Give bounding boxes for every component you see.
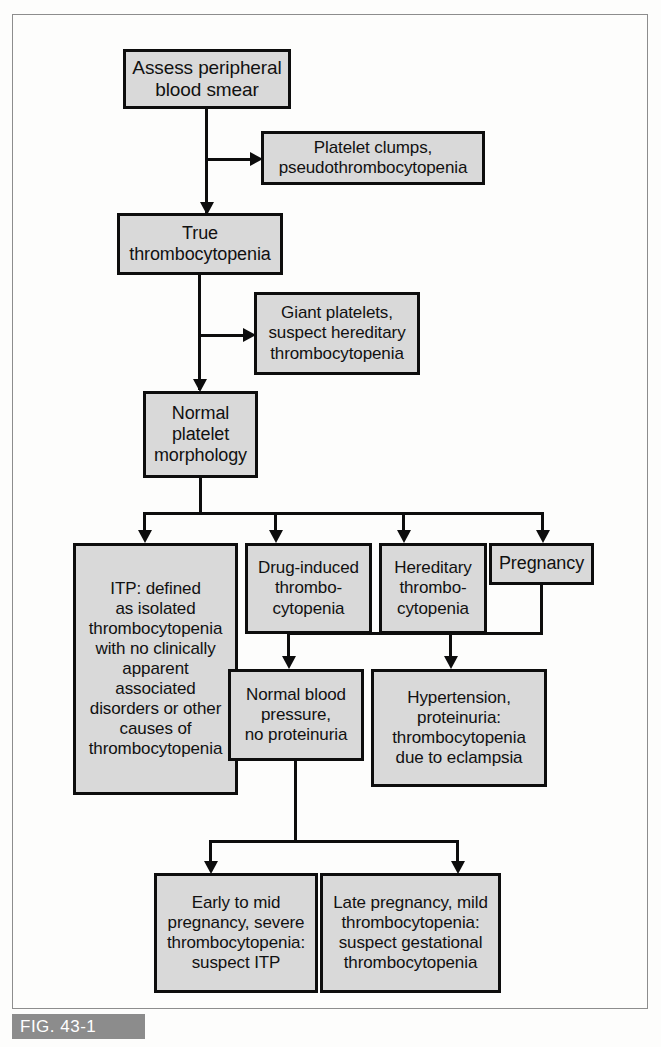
node-hereditary-line-3: cytopenia (386, 599, 480, 619)
node-itp-line-1: ITP: defined (80, 579, 231, 599)
node-hereditary-thrombocytopenia: Hereditary thrombo- cytopenia (379, 543, 487, 634)
node-hereditary-label: Hereditary thrombo- cytopenia (386, 558, 480, 618)
node-itp: ITP: defined as isolated thrombocytopeni… (73, 543, 238, 795)
node-itp-line-4: with no clinically (80, 639, 231, 659)
node-itp-label: ITP: defined as isolated thrombocytopeni… (80, 579, 231, 759)
node-normal-morph-line-1: Normal (150, 403, 251, 424)
arrowhead-drop-normal-bp (282, 656, 296, 669)
node-normal-bp-line-3: no proteinuria (235, 725, 357, 745)
node-giant-platelets: Giant platelets, suspect hereditary thro… (254, 292, 420, 375)
node-itp-line-5: apparent (80, 659, 231, 679)
connector-normal-bp-stem (294, 761, 297, 843)
node-itp-line-7: disorders or other (80, 699, 231, 719)
figure-frame: Assess peripheral blood smear Platelet c… (12, 14, 648, 1009)
connector-pregnancy-stem (540, 585, 543, 635)
node-itp-line-9: thrombocytopenia (80, 739, 231, 759)
arrowhead-drop-itp (138, 530, 152, 543)
node-drug-line-2: thrombo- (252, 578, 365, 598)
connector-four-way-bar (143, 512, 544, 515)
node-hypertension-label: Hypertension, proteinuria: thrombocytope… (378, 688, 540, 768)
node-late-pregnancy-label: Late pregnancy, mild thrombocytopenia: s… (327, 893, 494, 973)
node-itp-line-6: associated (80, 679, 231, 699)
connector-assess-to-true (205, 109, 208, 213)
node-pregnancy: Pregnancy (489, 543, 594, 585)
node-pregnancy-label: Pregnancy (496, 553, 587, 574)
connector-bottom-split-bar (209, 840, 459, 843)
figure-caption-label: FIG. 43-1 (12, 1017, 96, 1037)
figure-page: Assess peripheral blood smear Platelet c… (0, 0, 661, 1047)
node-drug-induced-label: Drug-induced thrombo- cytopenia (252, 558, 365, 618)
node-normal-morph-line-2: platelet (150, 424, 251, 445)
arrowhead-drop-drug-induced (269, 530, 283, 543)
node-early-line-4: suspect ITP (161, 953, 311, 973)
arrowhead-drop-hypertension (444, 656, 458, 669)
node-itp-line-8: causes of (80, 719, 231, 739)
node-drug-line-1: Drug-induced (252, 558, 365, 578)
node-hypertension-line-2: proteinuria: (378, 708, 540, 728)
node-early-line-1: Early to mid (161, 893, 311, 913)
node-platelet-clumps-label: Platelet clumps, pseudothrombocytopenia (268, 138, 478, 178)
arrowhead-drop-hereditary (397, 530, 411, 543)
node-assess-label: Assess peripheral blood smear (130, 57, 284, 102)
connector-drop-normal-bp (287, 632, 290, 659)
node-hypertension-line-3: thrombocytopenia (378, 728, 540, 748)
node-drug-induced-thrombocytopenia: Drug-induced thrombo- cytopenia (245, 543, 372, 634)
node-hypertension-eclampsia: Hypertension, proteinuria: thrombocytope… (371, 669, 547, 787)
node-hypertension-line-4: due to eclampsia (378, 748, 540, 768)
node-true-thrombocytopenia: True thrombocytopenia (117, 213, 283, 275)
node-early-line-3: thrombocytopenia: (161, 933, 311, 953)
node-early-mid-pregnancy: Early to mid pregnancy, severe thrombocy… (154, 873, 318, 993)
node-platelet-clumps: Platelet clumps, pseudothrombocytopenia (261, 131, 485, 185)
connector-drop-hypertension (449, 632, 452, 659)
node-true-thrombocytopenia-label: True thrombocytopenia (124, 223, 276, 265)
node-normal-platelet-morphology: Normal platelet morphology (143, 391, 258, 478)
figure-caption-bar: FIG. 43-1 (12, 1014, 145, 1039)
node-hypertension-line-1: Hypertension, (378, 688, 540, 708)
arrowhead-drop-pregnancy (536, 530, 550, 543)
node-normal-bp-line-1: Normal blood (235, 685, 357, 705)
node-hereditary-line-1: Hereditary (386, 558, 480, 578)
node-late-line-3: suspect gestational (327, 933, 494, 953)
node-late-line-2: thrombocytopenia: (327, 913, 494, 933)
node-late-line-4: thrombocytopenia (327, 953, 494, 973)
connector-true-to-normal (198, 275, 201, 390)
connector-pregnancy-split-bar (287, 632, 543, 635)
node-platelet-clumps-line-2: pseudothrombocytopenia (268, 158, 478, 178)
node-platelet-clumps-line-1: Platelet clumps, (268, 138, 478, 158)
node-itp-line-2: as isolated (80, 599, 231, 619)
connector-normal-morphology-stem (199, 478, 202, 514)
node-giant-line-2: suspect hereditary (261, 323, 413, 343)
node-true-line-2: thrombocytopenia (124, 244, 276, 265)
node-drug-line-3: cytopenia (252, 599, 365, 619)
node-normal-bp-line-2: pressure, (235, 705, 357, 725)
node-giant-line-1: Giant platelets, (261, 303, 413, 323)
node-hereditary-line-2: thrombo- (386, 578, 480, 598)
node-late-pregnancy: Late pregnancy, mild thrombocytopenia: s… (320, 873, 501, 993)
node-early-mid-pregnancy-label: Early to mid pregnancy, severe thrombocy… (161, 893, 311, 973)
node-assess-peripheral-blood-smear: Assess peripheral blood smear (123, 49, 291, 109)
node-normal-bp-label: Normal blood pressure, no proteinuria (235, 685, 357, 745)
node-assess-line-1: Assess peripheral (130, 57, 284, 79)
node-giant-line-3: thrombocytopenia (261, 344, 413, 364)
node-true-line-1: True (124, 223, 276, 244)
node-assess-line-2: blood smear (130, 79, 284, 101)
node-normal-blood-pressure: Normal blood pressure, no proteinuria (228, 669, 364, 761)
node-late-line-1: Late pregnancy, mild (327, 893, 494, 913)
node-giant-platelets-label: Giant platelets, suspect hereditary thro… (261, 303, 413, 363)
node-normal-morphology-label: Normal platelet morphology (150, 403, 251, 467)
node-itp-line-3: thrombocytopenia (80, 619, 231, 639)
node-early-line-2: pregnancy, severe (161, 913, 311, 933)
node-normal-morph-line-3: morphology (150, 445, 251, 466)
